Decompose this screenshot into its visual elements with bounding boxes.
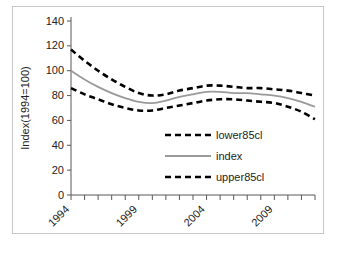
y-axis-tick-label: 140	[46, 15, 64, 27]
figure-container: 020406080100120140Index(1994=100)1994199…	[0, 0, 338, 257]
y-axis-tick-label: 40	[52, 139, 64, 151]
x-axis-tick-label: 1999	[113, 203, 139, 229]
series-line-upper85cl	[71, 88, 315, 119]
legend-label-lower85cl: lower85cl	[216, 129, 262, 141]
y-axis-tick-label: 0	[58, 189, 64, 201]
x-axis-tick-label: 2004	[181, 203, 207, 229]
y-axis-tick-label: 120	[46, 39, 64, 51]
figure-caption	[10, 239, 330, 255]
legend-label-upper85cl: upper85cl	[216, 171, 264, 183]
legend-label-index: index	[216, 150, 243, 162]
line-chart: 020406080100120140Index(1994=100)1994199…	[13, 7, 323, 233]
y-axis-tick-label: 20	[52, 164, 64, 176]
series-line-lower85cl	[71, 50, 315, 96]
y-axis-tick-label: 100	[46, 64, 64, 76]
y-axis-tick-label: 60	[52, 114, 64, 126]
x-axis-tick-label: 1994	[46, 203, 72, 229]
y-axis-tick-label: 80	[52, 89, 64, 101]
x-axis-tick-label: 2009	[249, 203, 275, 229]
chart-frame: 020406080100120140Index(1994=100)1994199…	[12, 6, 324, 234]
y-axis-title: Index(1994=100)	[19, 66, 31, 149]
